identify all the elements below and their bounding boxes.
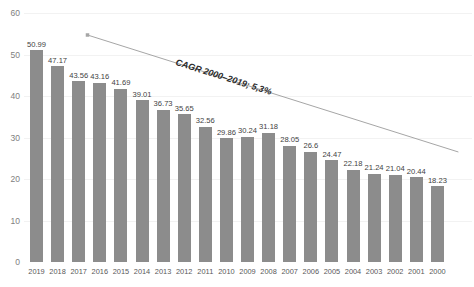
bar: [347, 170, 360, 262]
bar: [431, 186, 444, 262]
y-axis-tick-label: 50: [0, 51, 20, 60]
bar: [283, 146, 296, 262]
y-axis-tick-label: 40: [0, 92, 20, 101]
y-axis-tick-label: 60: [0, 9, 20, 18]
bar-value-label: 20.44: [403, 168, 429, 176]
bar-value-label: 32.56: [192, 117, 218, 125]
bar-value-label: 26.6: [298, 142, 324, 150]
bar-value-label: 47.17: [45, 57, 71, 65]
bar: [72, 81, 85, 262]
bar: [410, 177, 423, 262]
y-axis-tick-label: 30: [0, 134, 20, 143]
trendline: [0, 0, 474, 287]
bar-value-label: 39.01: [129, 91, 155, 99]
bar: [241, 137, 254, 262]
bar: [262, 133, 275, 262]
bar: [199, 127, 212, 262]
bar: [325, 160, 338, 262]
gridline: [24, 55, 472, 56]
y-axis-tick-label: 0: [0, 258, 20, 267]
cagr-annotation: CAGR 2000–2019; 5,3%: [174, 57, 272, 97]
gridline: [24, 96, 472, 97]
bar-value-label: 24.47: [319, 151, 345, 159]
y-axis-tick-label: 10: [0, 217, 20, 226]
bar-value-label: 41.69: [108, 79, 134, 87]
bar: [157, 110, 170, 262]
bar: [93, 83, 106, 262]
bar-value-label: 31.18: [256, 123, 282, 131]
bar-value-label: 35.65: [171, 105, 197, 113]
x-axis-tick-label: 2000: [424, 268, 450, 275]
bar: [30, 50, 43, 262]
gridline: [24, 13, 472, 14]
bar: [114, 89, 127, 262]
bar-chart: 0102030405060 50.9947.1743.5643.1641.693…: [0, 0, 474, 287]
bar: [136, 100, 149, 262]
bar: [368, 174, 381, 262]
bar: [389, 175, 402, 262]
y-axis-tick-label: 20: [0, 175, 20, 184]
bar: [178, 114, 191, 262]
bar-value-label: 50.99: [24, 41, 50, 49]
bar: [51, 66, 64, 262]
bar-value-label: 18.23: [424, 177, 450, 185]
bar: [304, 152, 317, 262]
bar: [220, 138, 233, 262]
